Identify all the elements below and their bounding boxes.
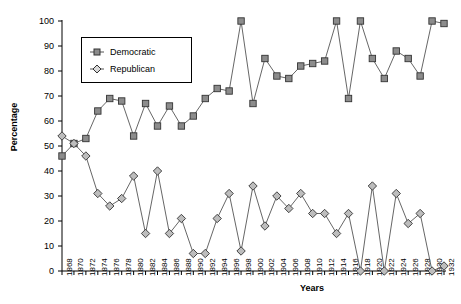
legend-item-republican: Republican [90,64,155,74]
data-point [393,48,399,54]
series-republican [58,132,448,275]
data-point [214,85,220,91]
data-point [177,214,185,222]
square-marker-icon [90,47,104,57]
data-point [225,189,233,197]
data-point [345,95,351,101]
data-point [153,167,161,175]
data-point [178,123,184,129]
data-point [417,73,423,79]
data-point [117,194,125,202]
data-point [274,73,280,79]
data-point [357,18,363,24]
data-point [83,135,89,141]
data-point [298,63,304,69]
diamond-marker-icon [90,64,104,74]
data-point [58,132,66,140]
data-point [202,95,208,101]
data-point [238,18,244,24]
plot-area [0,0,461,304]
data-point [189,249,197,257]
data-point [369,55,375,61]
data-point [440,262,448,270]
data-point [154,123,160,129]
data-point [166,103,172,109]
data-point [130,133,136,139]
data-point [201,249,209,257]
data-point [428,267,436,275]
data-point [333,18,339,24]
data-point [380,267,388,275]
data-point [237,247,245,255]
data-point [321,58,327,64]
data-point [226,88,232,94]
data-point [107,95,113,101]
legend-item-democratic: Democratic [90,47,156,57]
legend: Democratic Republican [81,37,192,83]
data-point [344,209,352,217]
chart-container: Percentage Years 0102030405060708090100 … [0,0,461,304]
data-point [368,182,376,190]
data-point [118,98,124,104]
legend-label-democratic: Democratic [110,47,156,57]
data-point [286,75,292,81]
data-point [320,209,328,217]
data-point [129,172,137,180]
data-point [213,214,221,222]
data-point [429,18,435,24]
data-point [309,60,315,66]
data-point [250,100,256,106]
data-point [141,229,149,237]
legend-label-republican: Republican [110,64,155,74]
data-point [392,189,400,197]
data-point [190,113,196,119]
data-point [59,153,65,159]
data-point [142,100,148,106]
data-point [249,182,257,190]
data-point [441,20,447,26]
data-point [262,55,268,61]
data-point [261,222,269,230]
data-point [95,108,101,114]
data-point [308,209,316,217]
data-point [405,55,411,61]
data-point [165,229,173,237]
data-point [356,267,364,275]
data-point [332,229,340,237]
data-point [381,75,387,81]
data-point [297,189,305,197]
